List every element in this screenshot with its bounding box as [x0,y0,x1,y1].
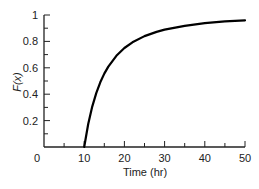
y-tick-label: 0.4 [23,88,38,100]
x-tick-label: 20 [118,152,130,164]
x-tick-label: 10 [78,152,90,164]
y-axis-title: F(x) [11,72,23,92]
y-tick-label: 0.2 [23,115,38,127]
x-axis-title: Time (hr) [123,166,167,178]
x-tick-label: 30 [158,152,170,164]
cdf-chart: 010203040500.20.40.60.81 Time (hr) F(x) [0,0,259,189]
y-tick-label: 0.8 [23,35,38,47]
axes: 010203040500.20.40.60.81 [23,9,251,164]
cdf-curve [84,20,245,147]
x-tick-label: 0 [34,152,40,164]
y-tick-label: 1 [32,9,38,21]
x-tick-label: 50 [239,152,251,164]
y-tick-label: 0.6 [23,62,38,74]
x-tick-label: 40 [199,152,211,164]
